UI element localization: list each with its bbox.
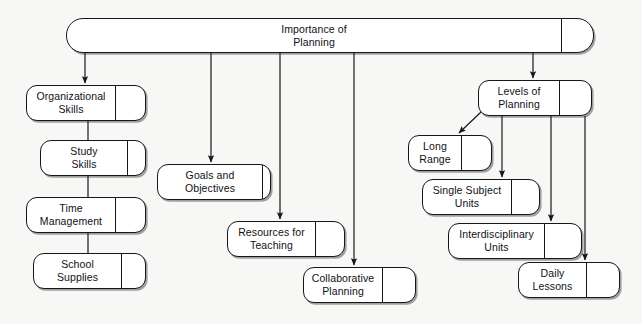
- node-label-line: Daily: [541, 267, 565, 280]
- node-divider-importance-of-planning: [561, 19, 562, 52]
- node-label-line: Planning: [322, 285, 364, 298]
- node-divider-organizational-skills: [115, 86, 116, 120]
- node-label-line: Management: [40, 215, 102, 228]
- node-label-line: Units: [484, 241, 508, 254]
- node-divider-school-supplies: [121, 254, 122, 288]
- node-label-line: Single Subject: [433, 184, 502, 197]
- node-long-range[interactable]: LongRange: [408, 135, 492, 171]
- node-label-line: Importance of: [281, 23, 347, 36]
- node-label-daily-lessons: DailyLessons: [519, 263, 586, 297]
- node-time-management[interactable]: TimeManagement: [26, 197, 146, 233]
- concept-map-canvas: Importance ofPlanningOrganizationalSkill…: [0, 0, 642, 324]
- node-divider-single-subject-units: [511, 180, 512, 214]
- node-label-long-range: LongRange: [409, 136, 461, 170]
- node-label-line: Units: [455, 197, 479, 210]
- node-resources-for-teaching[interactable]: Resources forTeaching: [227, 221, 345, 257]
- node-divider-long-range: [461, 136, 462, 170]
- node-label-line: Lessons: [533, 280, 573, 293]
- node-single-subject-units[interactable]: Single SubjectUnits: [422, 179, 540, 215]
- node-label-levels-of-planning: Levels ofPlanning: [479, 81, 559, 115]
- node-label-line: Planning: [498, 98, 540, 111]
- node-label-line: School: [61, 258, 94, 271]
- node-label-interdisciplinary-units: InterdisciplinaryUnits: [449, 224, 544, 258]
- node-label-line: Collaborative: [312, 272, 375, 285]
- node-label-line: Time: [59, 202, 82, 215]
- node-divider-study-skills: [127, 141, 128, 175]
- node-label-organizational-skills: OrganizationalSkills: [27, 86, 115, 120]
- node-collaborative-planning[interactable]: CollaborativePlanning: [303, 267, 416, 303]
- node-divider-time-management: [115, 198, 116, 232]
- node-divider-collaborative-planning: [382, 268, 383, 302]
- node-label-line: Organizational: [36, 90, 105, 103]
- node-importance-of-planning[interactable]: Importance ofPlanning: [66, 18, 594, 53]
- node-label-study-skills: StudySkills: [41, 141, 127, 175]
- node-label-line: Study: [70, 145, 97, 158]
- node-label-goals-and-objectives: Goals andObjectives: [158, 165, 262, 199]
- node-school-supplies[interactable]: SchoolSupplies: [33, 253, 146, 289]
- node-label-school-supplies: SchoolSupplies: [34, 254, 121, 288]
- node-label-line: Teaching: [250, 239, 293, 252]
- node-study-skills[interactable]: StudySkills: [40, 140, 146, 176]
- node-label-line: Skills: [71, 158, 96, 171]
- node-levels-of-planning[interactable]: Levels ofPlanning: [478, 80, 592, 116]
- node-label-single-subject-units: Single SubjectUnits: [423, 180, 511, 214]
- node-label-resources-for-teaching: Resources forTeaching: [228, 222, 315, 256]
- node-divider-goals-and-objectives: [262, 165, 263, 199]
- node-interdisciplinary-units[interactable]: InterdisciplinaryUnits: [448, 223, 582, 259]
- node-label-line: Skills: [58, 103, 83, 116]
- node-label-line: Goals and: [186, 169, 235, 182]
- node-label-line: Objectives: [185, 182, 235, 195]
- node-label-line: Resources for: [238, 226, 305, 239]
- node-divider-interdisciplinary-units: [544, 224, 545, 258]
- node-label-line: Long: [423, 140, 447, 153]
- node-label-line: Levels of: [498, 85, 541, 98]
- node-goals-and-objectives[interactable]: Goals andObjectives: [157, 164, 271, 200]
- node-label-line: Planning: [293, 36, 335, 49]
- node-divider-daily-lessons: [586, 263, 587, 297]
- node-label-importance-of-planning: Importance ofPlanning: [67, 19, 561, 52]
- node-daily-lessons[interactable]: DailyLessons: [518, 262, 620, 298]
- node-organizational-skills[interactable]: OrganizationalSkills: [26, 85, 146, 121]
- node-label-line: Supplies: [57, 271, 98, 284]
- node-divider-resources-for-teaching: [315, 222, 316, 256]
- node-label-line: Range: [419, 153, 450, 166]
- node-label-line: Interdisciplinary: [459, 228, 534, 241]
- node-label-collaborative-planning: CollaborativePlanning: [304, 268, 382, 302]
- edge-levels-of-planning-to-long-range: [459, 112, 481, 133]
- node-divider-levels-of-planning: [559, 81, 560, 115]
- node-label-time-management: TimeManagement: [27, 198, 115, 232]
